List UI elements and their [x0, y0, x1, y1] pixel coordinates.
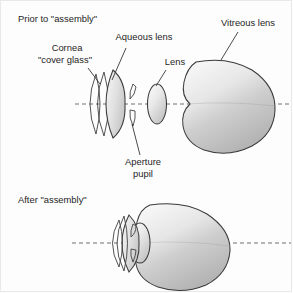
aqueous-lens-leader-line [112, 48, 126, 80]
cornea-leader-line [88, 68, 100, 84]
aperture-pupil-shape [130, 84, 136, 126]
vitreous-lens-shape [183, 60, 275, 153]
vitreous-lens-leader-line [221, 32, 238, 60]
aqueous-lens-label: Aqueous lens [116, 31, 173, 42]
diagram-canvas: Prior to "assembly" Cornea "cover glass"… [0, 0, 293, 293]
cornea-label-line2: "cover glass" [38, 54, 92, 65]
top-diagram-group [75, 60, 291, 153]
lens-shape [148, 84, 167, 124]
lens-label: Lens [165, 56, 186, 67]
vitreous-lens-label: Vitreous lens [221, 17, 275, 28]
aperture-label-line1: Aperture [125, 156, 161, 167]
eye-optics-figure: Prior to "assembly" Cornea "cover glass"… [0, 0, 293, 293]
section-title-bottom: After "assembly" [18, 194, 87, 205]
aperture-label-line2: pupil [133, 168, 153, 179]
aqueous-lens-shape [106, 70, 125, 138]
section-title-top: Prior to "assembly" [18, 13, 97, 24]
cornea-label-line1: Cornea [52, 42, 84, 53]
lens-leader-line [156, 70, 166, 86]
aperture-leader-line [132, 124, 140, 155]
bottom-diagram-group: After "assembly" [18, 194, 291, 291]
